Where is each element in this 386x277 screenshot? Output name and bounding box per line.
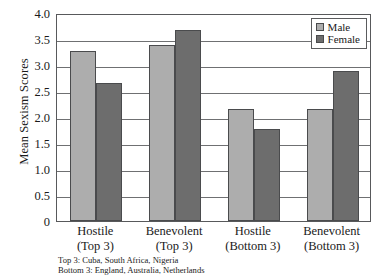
x-axis-category-labels: Hostile(Top 3)Benevolent(Top 3)Hostile(B… [56, 224, 371, 258]
legend-label-male: Male [328, 22, 351, 33]
bar-chart-figure: Mean Sexism Scores 00.51.01.52.02.53.03.… [0, 0, 386, 277]
chart-footnotes: Top 3: Cuba, South Africa, Nigeria Botto… [58, 256, 205, 275]
x-axis-category-label: Hostile(Top 3) [56, 224, 135, 254]
x-axis-category-label: Benevolent(Bottom 3) [292, 224, 371, 254]
x-category-line2: (Top 3) [56, 239, 135, 254]
legend-item-male: Male [316, 21, 360, 33]
x-category-line1: Benevolent [292, 224, 371, 239]
legend-label-female: Female [328, 34, 360, 45]
x-category-line2: (Bottom 3) [214, 239, 293, 254]
x-category-line1: Hostile [214, 224, 293, 239]
bar-male [149, 45, 175, 221]
x-category-line2: (Top 3) [135, 239, 214, 254]
female-swatch-icon [316, 35, 324, 43]
plot-area: Male Female [56, 14, 371, 222]
legend-item-female: Female [316, 33, 360, 45]
bar-female [96, 83, 122, 221]
bar-female [175, 30, 201, 221]
bar-female [333, 71, 359, 221]
bar-male [228, 109, 254, 221]
x-category-line1: Benevolent [135, 224, 214, 239]
x-axis-category-label: Benevolent(Top 3) [135, 224, 214, 254]
x-category-line1: Hostile [56, 224, 135, 239]
y-axis-tick-label: 4.0 [10, 8, 50, 21]
x-axis-category-label: Hostile(Bottom 3) [214, 224, 293, 254]
bar-male [70, 51, 96, 221]
bar-female [254, 129, 280, 221]
male-swatch-icon [316, 23, 324, 31]
bar-male [307, 109, 333, 221]
chart-legend: Male Female [311, 18, 367, 49]
x-category-line2: (Bottom 3) [292, 239, 371, 254]
footnote-bottom: Bottom 3: England, Australia, Netherland… [58, 266, 205, 276]
y-axis-tick-label: 0 [10, 216, 50, 229]
y-axis-title: Mean Sexism Scores [17, 22, 32, 202]
